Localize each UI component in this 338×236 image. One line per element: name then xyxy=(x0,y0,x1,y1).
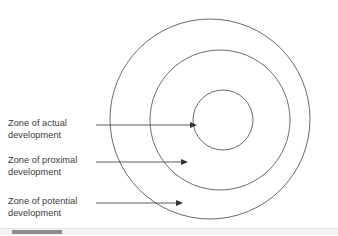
figure-root: Zone of actual development Zone of proxi… xyxy=(0,0,338,236)
pointer-arrowhead-proximal xyxy=(181,159,188,165)
circle-zone-of-actual-development xyxy=(193,90,253,150)
horizontal-scrollbar-track[interactable] xyxy=(0,228,338,235)
circle-zone-of-proximal-development xyxy=(150,50,290,190)
pointer-arrowhead-potential xyxy=(176,200,183,206)
horizontal-scrollbar-thumb[interactable] xyxy=(12,230,62,234)
label-zone-of-proximal-development: Zone of proximal development xyxy=(8,154,77,179)
label-zone-of-actual-development: Zone of actual development xyxy=(8,117,67,142)
label-zone-of-potential-development: Zone of potential development xyxy=(8,195,77,220)
